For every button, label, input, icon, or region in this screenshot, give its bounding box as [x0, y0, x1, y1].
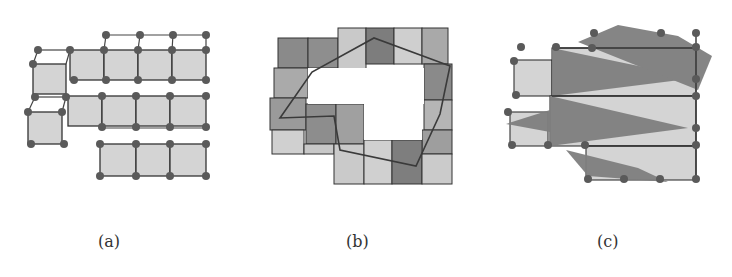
interior-hole-lower [364, 68, 422, 140]
caption-b: (b) [346, 232, 369, 251]
shaded-cells [270, 28, 452, 184]
caption-a: (a) [98, 232, 120, 251]
caption-c: (c) [597, 232, 618, 251]
cell-grid [28, 50, 206, 176]
panel-a-figure [0, 0, 244, 210]
panel-b-figure [244, 0, 488, 210]
panel-c-figure [488, 0, 732, 210]
